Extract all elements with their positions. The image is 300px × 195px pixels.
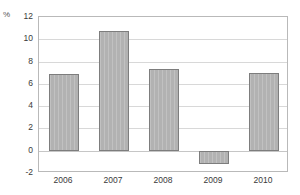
x-axis: 20062007200820092010 — [38, 175, 288, 189]
plot-area — [38, 16, 288, 172]
y-tick-label: 0 — [28, 145, 33, 154]
bar-2006 — [49, 74, 79, 151]
bars-layer — [39, 17, 287, 171]
y-tick-label: 2 — [28, 123, 33, 132]
x-tick-label: 2008 — [154, 175, 173, 185]
x-tick-label: 2006 — [54, 175, 73, 185]
y-axis: 121086420-2 — [0, 0, 37, 195]
bar-2008 — [149, 69, 179, 150]
bar-2009 — [199, 151, 229, 164]
y-tick-label: 6 — [28, 78, 33, 87]
x-tick-label: 2007 — [104, 175, 123, 185]
bar-2007 — [99, 31, 129, 150]
x-tick-label: 2010 — [254, 175, 273, 185]
y-tick-label: 10 — [24, 34, 33, 43]
bar-chart: % 121086420-2 20062007200820092010 — [0, 0, 300, 195]
y-tick-label: 4 — [28, 101, 33, 110]
y-tick-label: -2 — [25, 168, 33, 177]
y-tick-label: 12 — [24, 12, 33, 21]
y-tick-label: 8 — [28, 56, 33, 65]
bar-2010 — [249, 73, 279, 151]
x-tick-label: 2009 — [204, 175, 223, 185]
